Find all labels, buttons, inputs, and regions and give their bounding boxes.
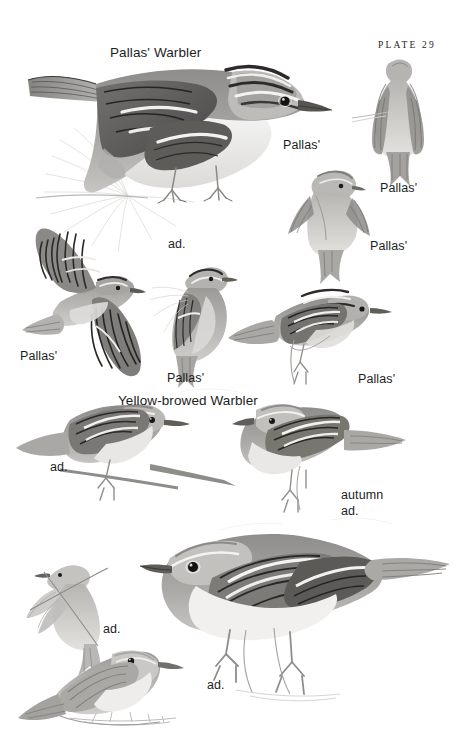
yellow-browed-warbler-heading: Yellow-browed Warbler xyxy=(118,392,258,410)
fig-yellow-browed-warbler-hovering xyxy=(26,565,108,678)
plate-illustrations xyxy=(0,0,468,755)
caption-ad-large-lower: ad. xyxy=(207,677,225,694)
plate-number: PLATE 29 xyxy=(378,40,436,50)
caption-pallas-lower-right: Pallas' xyxy=(358,371,395,388)
caption-pallas-underside: Pallas' xyxy=(380,180,417,197)
caption-ad-main: ad. xyxy=(168,236,186,253)
fig-pallas-warbler-adult-perched xyxy=(28,67,332,252)
caption-pallas-clinging: Pallas' xyxy=(167,370,204,387)
fig-yellow-browed-warbler-ground xyxy=(18,651,184,725)
caption-ad-autumn: ad. xyxy=(341,503,359,520)
fig-yellow-browed-warbler-large-adult xyxy=(140,534,450,701)
fig-pallas-warbler-perched-branch xyxy=(228,290,392,384)
caption-ad-yellow-browed-left: ad. xyxy=(50,459,68,476)
fig-pallas-warbler-underside xyxy=(352,60,424,187)
caption-autumn: autumn xyxy=(341,487,383,504)
caption-pallas-perched-main: Pallas' xyxy=(283,137,320,154)
bird-plate-page: PLATE 29 Pallas' Warbler Yellow-browed W… xyxy=(0,0,468,755)
caption-pallas-hover: Pallas' xyxy=(370,238,407,255)
fig-yellow-browed-warbler-adult-left xyxy=(16,404,236,500)
fig-pallas-warbler-hovering xyxy=(288,171,370,284)
pallas-warbler-heading: Pallas' Warbler xyxy=(110,44,201,62)
caption-ad-hover-lower: ad. xyxy=(103,621,121,638)
caption-pallas-flight: Pallas' xyxy=(20,348,57,365)
